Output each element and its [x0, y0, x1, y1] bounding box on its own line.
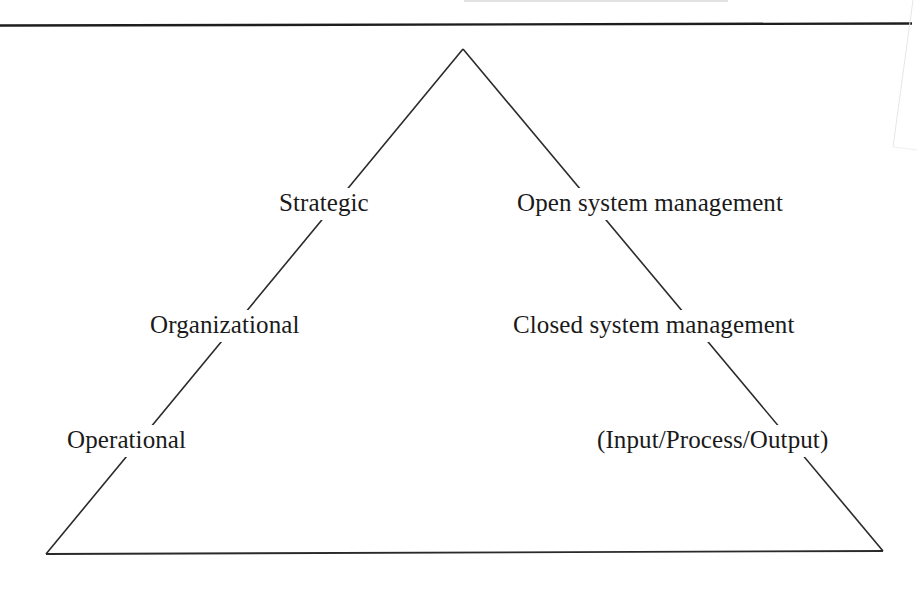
label-strategic: Strategic	[275, 188, 373, 220]
page-top-shade	[464, 0, 728, 2]
page-edge-bottom	[893, 147, 917, 150]
diagram-lines	[0, 0, 917, 592]
pyramid-right-edge	[463, 49, 883, 551]
label-operational: Operational	[63, 425, 190, 457]
top-rule	[0, 24, 912, 26]
page-edge-line	[893, 0, 913, 147]
label-open-system-management: Open system management	[513, 188, 787, 220]
label-organizational: Organizational	[146, 310, 304, 342]
label-closed-system-management: Closed system management	[509, 310, 799, 342]
pyramid-base	[46, 551, 883, 554]
label-input-process-output: (Input/Process/Output)	[593, 425, 832, 457]
pyramid-left-edge	[46, 49, 463, 554]
pyramid-diagram: Strategic Organizational Operational Ope…	[0, 0, 917, 592]
